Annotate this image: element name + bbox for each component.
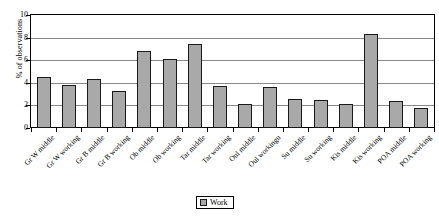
y-tick-label: 0 — [2, 123, 28, 132]
x-tick — [384, 128, 385, 132]
x-axis-labels: Gr W middleGr W workingGr B middleGr B w… — [31, 133, 434, 195]
x-tick — [132, 128, 133, 132]
x-tick — [283, 128, 284, 132]
x-tick — [207, 128, 208, 132]
y-tick-label: 6 — [2, 55, 28, 64]
bar-slot — [283, 15, 308, 128]
bar-chart: % of observations Gr W middleGr W workin… — [0, 0, 439, 221]
y-tick-mark — [26, 15, 30, 16]
x-tick — [308, 128, 309, 132]
bar — [263, 87, 277, 128]
bar-slot — [182, 15, 207, 128]
bar — [414, 108, 428, 128]
bar-slot — [107, 15, 132, 128]
bar-slot — [31, 15, 56, 128]
x-axis-ticks — [31, 128, 434, 132]
bar — [188, 44, 202, 128]
bar — [37, 77, 51, 128]
bar — [213, 86, 227, 128]
bar-slot — [358, 15, 383, 128]
bar-slot — [56, 15, 81, 128]
x-tick — [56, 128, 57, 132]
bar-slot — [157, 15, 182, 128]
x-tick — [31, 128, 32, 132]
x-tick — [333, 128, 334, 132]
bar-slot — [81, 15, 106, 128]
y-tick-mark — [26, 128, 30, 129]
bar-slot — [333, 15, 358, 128]
y-tick-mark — [26, 38, 30, 39]
legend-label-work: Work — [210, 198, 228, 207]
bar — [163, 59, 177, 128]
bar-slot — [207, 15, 232, 128]
bar — [314, 100, 328, 128]
y-tick-label: 10 — [2, 10, 28, 19]
bar — [87, 79, 101, 128]
bar — [112, 91, 126, 128]
bar — [288, 99, 302, 128]
y-tick-label: 2 — [2, 100, 28, 109]
x-tick — [233, 128, 234, 132]
bars-layer — [31, 15, 434, 128]
bar-slot — [233, 15, 258, 128]
x-tick — [157, 128, 158, 132]
bar — [364, 34, 378, 128]
bar-slot — [384, 15, 409, 128]
bar-slot — [258, 15, 283, 128]
bar — [238, 104, 252, 128]
bar-slot — [132, 15, 157, 128]
y-tick-mark — [26, 60, 30, 61]
bar — [339, 104, 353, 128]
legend-swatch-work — [200, 199, 207, 206]
y-tick-mark — [26, 105, 30, 106]
bar — [137, 51, 151, 128]
y-tick-label: 4 — [2, 78, 28, 87]
bar — [62, 85, 76, 129]
x-tick — [81, 128, 82, 132]
y-tick-label: 8 — [2, 33, 28, 42]
x-tick — [107, 128, 108, 132]
bar — [389, 101, 403, 128]
x-tick — [182, 128, 183, 132]
x-tick — [434, 128, 435, 132]
legend: Work — [196, 196, 234, 209]
x-tick — [258, 128, 259, 132]
bar-slot — [409, 15, 434, 128]
x-tick — [358, 128, 359, 132]
x-tick — [409, 128, 410, 132]
bar-slot — [308, 15, 333, 128]
y-tick-mark — [26, 83, 30, 84]
